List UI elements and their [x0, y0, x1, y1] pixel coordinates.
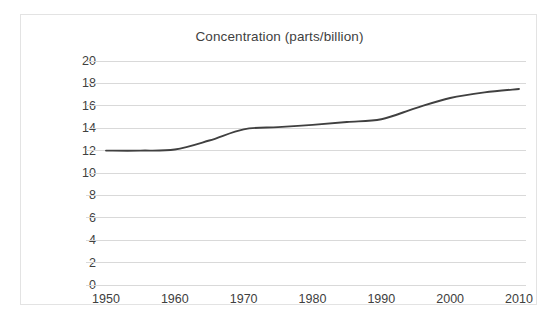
x-tick-label: 2000 — [436, 292, 464, 306]
chart-title: Concentration (parts/billion) — [21, 29, 538, 44]
x-tick-label: 1950 — [92, 292, 120, 306]
plot-area — [106, 61, 519, 285]
x-axis-tick-labels: 1950196019701980199020002010 — [106, 292, 519, 312]
data-series-line — [106, 61, 519, 285]
series-line-concentration — [106, 89, 519, 151]
x-tick-label: 2010 — [505, 292, 533, 306]
x-tick-label: 1980 — [299, 292, 327, 306]
x-tick-label: 1990 — [367, 292, 395, 306]
chart-container: Concentration (parts/billion) 0246810121… — [20, 14, 537, 305]
x-tick-label: 1970 — [230, 292, 258, 306]
x-tick-label: 1960 — [161, 292, 189, 306]
